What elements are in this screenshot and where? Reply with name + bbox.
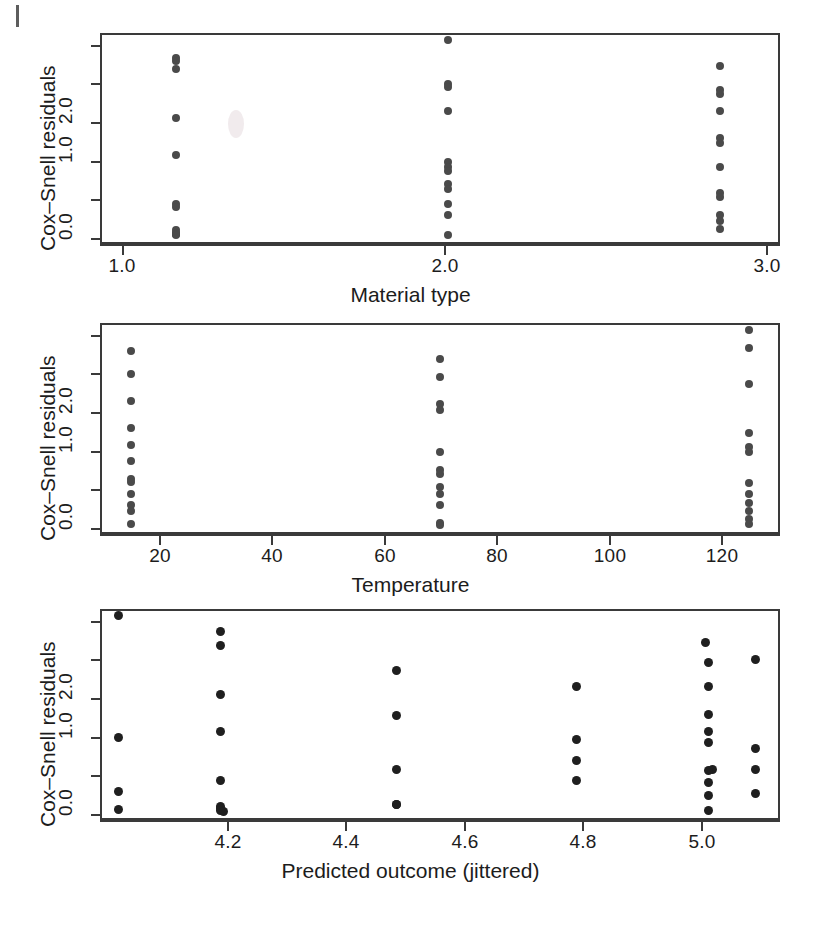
x-tick-label: 4.4 (306, 831, 386, 853)
y-tick (91, 335, 100, 337)
panel-predicted-outcome: 2.0 1.0 0.0 4.2 4.4 4.6 4.8 5.0 Predicte… (0, 580, 821, 934)
x-tick-label: 40 (232, 545, 312, 567)
data-point (219, 807, 228, 816)
y-tick (91, 373, 100, 375)
x-tick-label: 2.0 (405, 255, 485, 277)
data-point (216, 690, 225, 699)
x-tick-label: 80 (457, 545, 537, 567)
data-point (704, 791, 713, 800)
data-point (127, 424, 135, 432)
data-point (392, 666, 401, 675)
data-point (572, 776, 581, 785)
y-tick (91, 659, 100, 661)
y-tick (91, 737, 100, 739)
y-tick (91, 161, 100, 163)
data-point (751, 655, 760, 664)
data-point (216, 776, 225, 785)
y-tick (91, 621, 100, 623)
y-tick (91, 238, 100, 240)
data-point (572, 735, 581, 744)
x-tick-label: 1.0 (82, 255, 162, 277)
y-tick (91, 528, 100, 530)
data-point (127, 441, 135, 449)
data-point (745, 326, 753, 334)
x-tick-label: 60 (345, 545, 425, 567)
x-tick (227, 822, 229, 831)
x-axis-line (100, 820, 780, 822)
y-tick (91, 412, 100, 414)
data-point (704, 710, 713, 719)
x-tick-label: 120 (682, 545, 762, 567)
data-point (751, 765, 760, 774)
y-tick (91, 122, 100, 124)
data-point (392, 765, 401, 774)
panel-material-type: 2.0 1.0 0.0 1.0 2.0 3.0 Material type Co… (0, 0, 821, 290)
x-tick (444, 246, 446, 255)
data-point (572, 756, 581, 765)
data-point (716, 225, 724, 233)
data-point (216, 641, 225, 650)
y-tick (91, 775, 100, 777)
data-point (751, 789, 760, 798)
data-point (216, 727, 225, 736)
data-point (745, 448, 753, 456)
y-tick (91, 199, 100, 201)
data-point (444, 83, 452, 91)
scan-smudge (228, 110, 244, 138)
x-tick-label: 4.2 (188, 831, 268, 853)
x-axis-line (100, 534, 780, 536)
x-tick (464, 822, 466, 831)
y-axis-title-material-type: Cox–Snell residuals (36, 65, 60, 251)
x-tick (496, 536, 498, 545)
y-axis-title-temperature: Cox–Snell residuals (36, 355, 60, 541)
data-point (436, 406, 444, 414)
data-point (444, 185, 452, 193)
data-point (436, 355, 444, 363)
data-point (444, 36, 452, 44)
y-axis-title-predicted-outcome: Cox–Snell residuals (36, 641, 60, 827)
x-tick (766, 246, 768, 255)
x-axis-title-predicted-outcome: Predicted outcome (jittered) (0, 859, 821, 883)
y-tick (91, 83, 100, 85)
plot-frame-material-type (100, 33, 780, 244)
x-tick-label: 5.0 (662, 831, 742, 853)
y-tick (91, 451, 100, 453)
x-tick (701, 822, 703, 831)
data-point (172, 203, 180, 211)
y-tick (91, 489, 100, 491)
x-tick (721, 536, 723, 545)
data-point (127, 397, 135, 405)
data-point (751, 744, 760, 753)
x-tick-label: 4.8 (543, 831, 623, 853)
data-point (701, 638, 710, 647)
data-point (704, 727, 713, 736)
x-tick (609, 536, 611, 545)
x-tick-label: 20 (120, 545, 200, 567)
data-point (127, 370, 135, 378)
x-tick-label: 100 (570, 545, 650, 567)
x-tick (345, 822, 347, 831)
x-tick (384, 536, 386, 545)
x-axis-line (100, 244, 780, 246)
x-tick-label: 4.6 (425, 831, 505, 853)
x-tick (582, 822, 584, 831)
data-point (127, 478, 135, 486)
x-tick (122, 246, 124, 255)
data-point (745, 520, 753, 528)
data-point (572, 682, 581, 691)
plot-frame-predicted-outcome (100, 609, 780, 820)
y-tick (91, 45, 100, 47)
y-tick (91, 814, 100, 816)
panel-temperature: 2.0 1.0 0.0 20 40 60 80 100 120 Temperat… (0, 290, 821, 580)
data-point (114, 787, 123, 796)
data-point (127, 347, 135, 355)
x-tick-label: 3.0 (727, 255, 807, 277)
data-point (716, 163, 724, 171)
y-tick (91, 698, 100, 700)
data-point (436, 373, 444, 381)
x-tick (159, 536, 161, 545)
x-tick (271, 536, 273, 545)
